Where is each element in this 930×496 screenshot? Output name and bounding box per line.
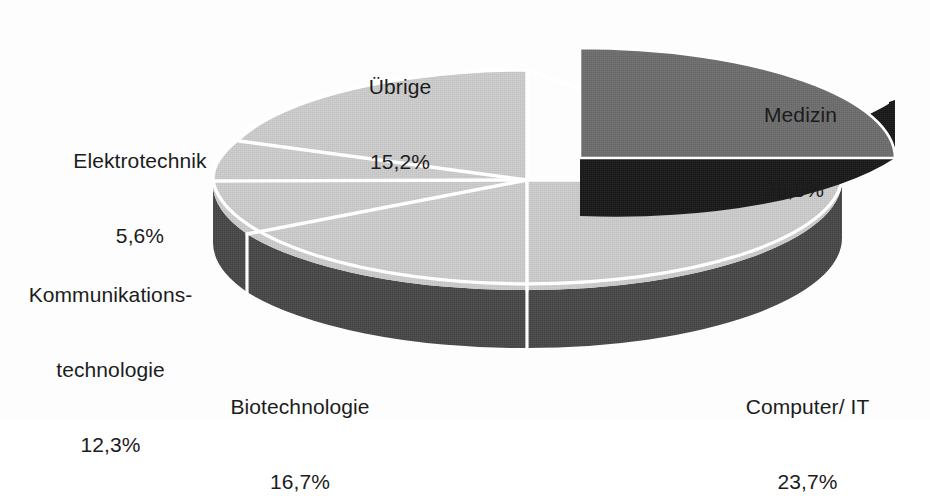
label-biotechnologie-name: Biotechnologie xyxy=(185,394,415,419)
label-medizin: Medizin 26,5% xyxy=(740,52,930,252)
label-kommunikationstechnologie-name-line2: technologie xyxy=(8,357,213,382)
label-uebrige-name: Übrige xyxy=(310,74,490,99)
label-medizin-value: 26,5% xyxy=(764,177,930,202)
label-uebrige: Übrige 15,2% xyxy=(310,24,490,224)
label-medizin-name: Medizin xyxy=(764,102,930,127)
label-computer-it: Computer/ IT 23,7% xyxy=(700,344,915,496)
label-computer-it-name: Computer/ IT xyxy=(700,394,915,419)
label-kommunikationstechnologie-name-line1: Kommunikations- xyxy=(8,282,213,307)
label-biotechnologie: Biotechnologie 16,7% xyxy=(185,344,415,496)
label-computer-it-value: 23,7% xyxy=(700,469,915,494)
label-elektrotechnik-name: Elektrotechnik xyxy=(20,148,260,173)
label-uebrige-value: 15,2% xyxy=(310,149,490,174)
label-kommunikationstechnologie: Kommunikations- technologie 12,3% xyxy=(8,232,213,496)
label-biotechnologie-value: 16,7% xyxy=(185,469,415,494)
label-kommunikationstechnologie-value: 12,3% xyxy=(8,432,213,457)
